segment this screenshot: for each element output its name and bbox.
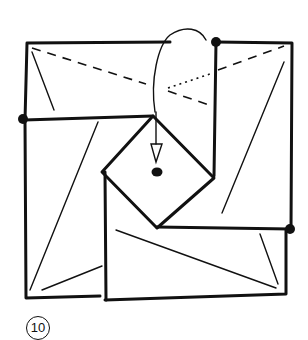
reference-dot-left xyxy=(18,114,28,124)
reference-dot-right xyxy=(285,224,295,234)
reference-dot-top xyxy=(211,37,221,47)
outer-edge-top-left xyxy=(25,42,170,120)
crease xyxy=(42,266,102,290)
target-dot-center xyxy=(152,168,163,177)
step-number: 10 xyxy=(26,316,50,340)
valley-fold-line xyxy=(218,46,284,70)
arrow-head-icon xyxy=(151,144,162,162)
left-flap-edge xyxy=(24,116,153,120)
top-flap-edge xyxy=(214,42,216,176)
crease xyxy=(30,122,98,290)
crease xyxy=(260,234,278,284)
right-flap-edge xyxy=(157,227,290,229)
hidden-line xyxy=(168,74,210,88)
crease xyxy=(116,230,276,288)
crease xyxy=(32,52,54,110)
crease xyxy=(222,62,284,213)
bottom-flap-edge xyxy=(105,172,106,300)
outer-edge-bottom xyxy=(105,230,286,300)
valley-fold-line xyxy=(32,48,146,84)
valley-fold-line xyxy=(168,91,212,106)
